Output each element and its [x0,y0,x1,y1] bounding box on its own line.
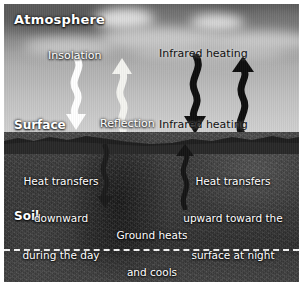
soil-left-line-1: Heat transfers [12,175,110,187]
figure-soil-heat-transfer-diagram: Atmosphere Insolation Reflection Infrare… [0,0,303,286]
soil-center-text: Ground heats and cools by conduction [94,204,210,282]
soil-right-line-1: Heat transfers [172,175,294,187]
infrared-heating-bottom-label: Infrared heating [159,119,248,132]
reflection-label: Reflection [100,118,155,131]
atmosphere-label: Atmosphere [14,12,105,27]
soil-center-line-2: and cools [94,266,210,278]
soil-center-line-1: Ground heats [94,229,210,241]
infrared-heating-top-label: Infrared heating [159,48,248,61]
insolation-label: Insolation [48,50,102,63]
surface-label: Surface [14,118,66,132]
diagram-canvas: Atmosphere Insolation Reflection Infrare… [4,4,299,282]
